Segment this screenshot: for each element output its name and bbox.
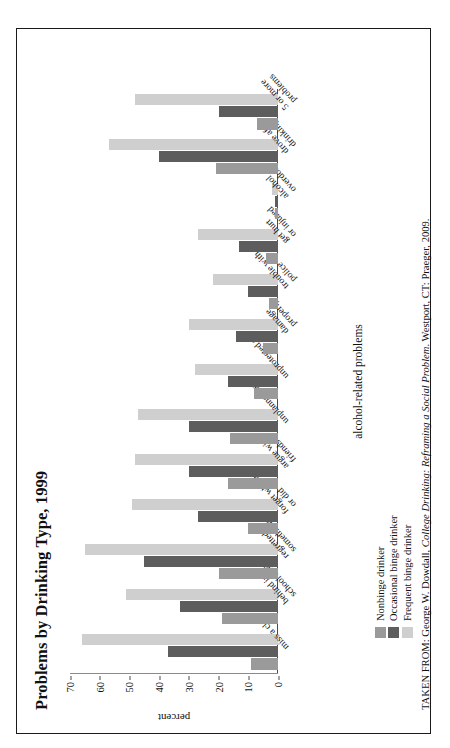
- bar: [198, 229, 278, 241]
- bar: [144, 556, 278, 568]
- bar: [198, 511, 278, 523]
- y-axis-tick-mark: [219, 676, 220, 680]
- bar: [189, 421, 278, 433]
- source-citation: TAKEN FROM: George W. Dowdall, College D…: [420, 219, 431, 710]
- x-axis-label: alcohol-related problems: [352, 89, 364, 674]
- y-axis-tick-mark: [129, 676, 130, 680]
- legend-label: Frequent binge drinker: [402, 525, 413, 621]
- legend-label: Occasional binge drinker: [388, 515, 399, 621]
- rotated-figure-plate: Problems by Drinking Type, 1999 70605040…: [16, 28, 431, 734]
- bar: [222, 613, 278, 625]
- bar-group: get hurtor injured: [70, 229, 278, 265]
- source-prefix: TAKEN FROM: George W. Dowdall,: [420, 547, 431, 710]
- bar: [248, 523, 278, 535]
- y-axis-tick-mark: [100, 676, 101, 680]
- legend-swatch: [402, 627, 413, 638]
- bar: [219, 106, 278, 118]
- bar: [180, 601, 278, 613]
- y-axis-label: percent: [158, 712, 190, 724]
- legend-label: Nonbinge drinker: [375, 547, 386, 621]
- legend-item: Nonbinge drinker: [375, 515, 386, 638]
- y-axis-tick-mark: [278, 676, 279, 680]
- bar-group: regrettedsomething: [70, 544, 278, 580]
- bar-group: unplanned sex: [70, 409, 278, 445]
- bar: [159, 151, 278, 163]
- bar-group: miss a class: [70, 634, 278, 670]
- bar: [135, 454, 278, 466]
- legend-swatch: [388, 627, 399, 638]
- y-axis-tick: 0: [273, 682, 284, 708]
- legend: Nonbinge drinkerOccasional binge drinker…: [375, 515, 416, 638]
- bar-group: behind inschoolwork: [70, 589, 278, 625]
- page-title: Problems by Drinking Type, 1999: [32, 471, 52, 710]
- bar: [168, 646, 278, 658]
- bar-group: trouble withpolice: [70, 274, 278, 310]
- bar: [85, 544, 278, 556]
- bar: [195, 364, 278, 376]
- source-title: College Drinking: Reframing a Social Pro…: [420, 347, 431, 548]
- bar-group: forget whereor did: [70, 499, 278, 535]
- source-suffix: . Westport, CT: Praeger, 2009.: [420, 219, 431, 347]
- bar: [126, 589, 278, 601]
- bar: [269, 298, 278, 310]
- bar: [189, 466, 278, 478]
- figure-page: Problems by Drinking Type, 1999 70605040…: [0, 0, 450, 748]
- bar: [135, 94, 278, 106]
- bar: [266, 253, 278, 265]
- bar: [230, 433, 278, 445]
- y-axis-tick-mark: [159, 676, 160, 680]
- bar: [263, 343, 278, 355]
- bar-group: argue withfriends: [70, 454, 278, 490]
- bar: [228, 478, 279, 490]
- bar: [216, 163, 278, 175]
- bar: [228, 376, 279, 388]
- bar-group: drove afterdrinking: [70, 139, 278, 175]
- y-axis-tick: 10: [243, 682, 254, 708]
- bar: [189, 319, 278, 331]
- bar: [82, 634, 278, 646]
- legend-item: Occasional binge drinker: [388, 515, 399, 638]
- bar: [109, 139, 278, 151]
- bar: [138, 409, 278, 421]
- bar: [275, 208, 278, 220]
- y-axis-tick: 70: [65, 682, 76, 708]
- plot-area: 706050403020100 miss a classbehind insch…: [70, 89, 278, 674]
- category-axis-line: [70, 673, 278, 674]
- y-axis-tick: 20: [213, 682, 224, 708]
- bar: [257, 118, 278, 130]
- bar: [219, 568, 278, 580]
- legend-item: Frequent binge drinker: [402, 515, 413, 638]
- bar: [248, 286, 278, 298]
- y-axis-tick-mark: [70, 676, 71, 680]
- y-axis-tick: 60: [94, 682, 105, 708]
- bar: [254, 388, 278, 400]
- bar-group: damageproperty: [70, 319, 278, 355]
- bar: [132, 499, 278, 511]
- y-axis-tick: 30: [183, 682, 194, 708]
- bar-group: alcoholoverdose: [70, 184, 278, 220]
- legend-swatch: [375, 627, 386, 638]
- bar-group: unprotected sex: [70, 364, 278, 400]
- y-axis-tick: 40: [154, 682, 165, 708]
- y-axis-tick-mark: [189, 676, 190, 680]
- bar: [251, 658, 278, 670]
- bar: [236, 331, 278, 343]
- bar: [239, 241, 278, 253]
- y-axis-tick: 50: [124, 682, 135, 708]
- y-axis-tick-mark: [248, 676, 249, 680]
- bar-group: 5 or moreproblems: [70, 94, 278, 130]
